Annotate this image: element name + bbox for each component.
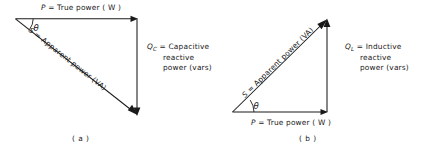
figure-canvas: θ P = True power ( W ) S = Apparent powe…: [0, 0, 429, 154]
inductive-reactive-line1-b: QL = Inductive: [345, 42, 402, 52]
angle-label-b: θ: [254, 101, 260, 111]
inductive-reactive-label-b: QL = Inductive reactive power (vars): [345, 42, 409, 72]
panel-b: θ S = Apparent power (VA) P = True power…: [233, 19, 409, 144]
inductive-reactive-vector-b: [324, 19, 331, 113]
inductive-reactive-line2-b: reactive: [360, 53, 392, 62]
capacitive-reactive-line1-a: QC = Capacitive: [147, 42, 209, 52]
true-power-text-b: = True power ( W ): [256, 118, 331, 127]
capacitive-reactive-line2-a: reactive: [163, 53, 195, 62]
panel-a: θ P = True power ( W ) S = Apparent powe…: [16, 3, 212, 143]
apparent-power-label-a: S = Apparent power (VA): [27, 25, 109, 92]
apparent-power-text-a: = Apparent power (VA): [31, 29, 109, 93]
true-power-label-b: P = True power ( W ): [251, 118, 331, 127]
true-power-text-a: = True power ( W ): [46, 3, 121, 12]
panel-caption-a: ( a ): [72, 134, 90, 143]
capacitive-reactive-vector-a: [134, 19, 141, 116]
true-power-label-a: P = True power ( W ): [41, 3, 121, 12]
capacitive-reactive-label-a: QC = Capacitive reactive power (vars): [147, 42, 212, 72]
panel-caption-b: ( b ): [299, 134, 317, 143]
true-power-vector-a: [16, 16, 139, 22]
apparent-power-text-b: = Apparent power (VA): [244, 25, 316, 96]
capacitive-reactive-text1-a: = Capacitive: [157, 42, 209, 51]
power-triangle-diagram: θ P = True power ( W ) S = Apparent powe…: [0, 0, 429, 154]
inductive-reactive-line3-b: power (vars): [360, 63, 409, 72]
capacitive-reactive-line3-a: power (vars): [163, 63, 212, 72]
true-power-vector-b: [233, 109, 329, 115]
apparent-power-label-b: S = Apparent power (VA): [240, 25, 315, 99]
inductive-reactive-text1-b: = Inductive: [354, 42, 401, 51]
